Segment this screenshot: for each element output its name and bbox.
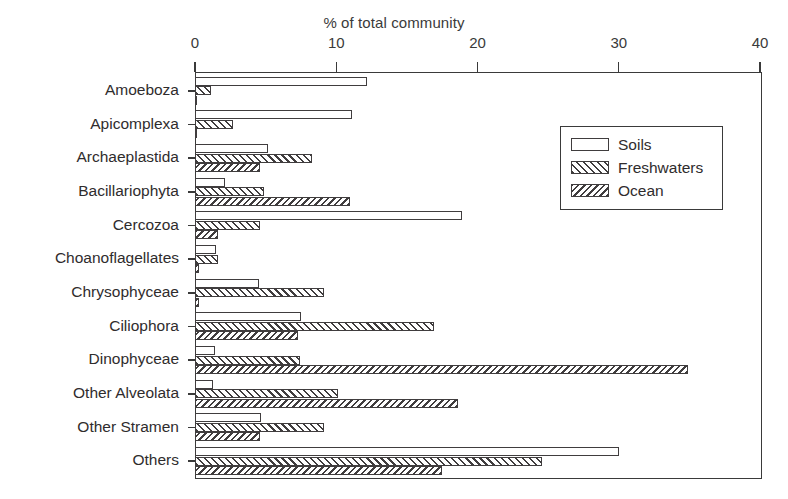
x-tick-label: 30 [610,34,627,51]
bar-ocean [195,163,260,172]
bar-group [195,410,760,444]
category-tick-mark [188,225,195,226]
bar-group [195,241,760,275]
bar-soils [195,312,301,321]
legend-item-ocean: Ocean [571,179,714,202]
bar-soils [195,144,268,153]
category-label: Bacillariophyta [0,182,179,200]
x-tick-label: 0 [191,34,199,51]
bar-ocean [195,466,442,475]
category-label: Ciliophora [0,317,179,335]
category-tick-mark [188,326,195,327]
x-tick-mark [336,62,337,72]
legend-label-freshwaters: Freshwaters [618,159,703,177]
bar-freshwaters [195,356,300,365]
x-tick-mark [618,62,619,72]
bar-freshwaters [195,221,260,230]
x-tick-mark [194,62,195,72]
bar-freshwaters [195,154,312,163]
bar-ocean [195,298,199,307]
bar-freshwaters [195,288,324,297]
x-tick-label: 20 [469,34,486,51]
category-label: Amoeboza [0,81,179,99]
bar-ocean [195,96,197,105]
chart-legend: Soils Freshwaters Ocean [560,126,723,210]
bar-ocean [195,331,298,340]
x-tick-label: 40 [752,34,769,51]
bar-freshwaters [195,86,211,95]
category-tick-mark [188,427,195,428]
category-label: Dinophyceae [0,350,179,368]
bar-freshwaters [195,322,434,331]
category-label: Other Alveolata [0,384,179,402]
bar-ocean [195,399,458,408]
category-tick-mark [188,157,195,158]
category-tick-mark [188,359,195,360]
bar-ocean [195,197,350,206]
bar-freshwaters [195,423,324,432]
category-label: Chrysophyceae [0,283,179,301]
x-tick-label: 10 [328,34,345,51]
bar-group [195,376,760,410]
bar-group [195,443,760,477]
category-tick-mark [188,393,195,394]
x-tick-mark [477,62,478,72]
bar-group [195,208,760,242]
bar-freshwaters [195,120,233,129]
bar-chart: % of total community 010203040 AmoebozaA… [0,0,788,499]
bar-freshwaters [195,255,218,264]
category-tick-mark [188,124,195,125]
category-tick-mark [188,460,195,461]
bar-freshwaters [195,389,338,398]
bar-group [195,73,760,107]
legend-label-soils: Soils [618,136,652,154]
bar-group [195,275,760,309]
category-label: Other Stramen [0,418,179,436]
x-tick-mark [759,62,760,72]
category-tick-mark [188,258,195,259]
x-axis-ticks: 010203040 [195,56,760,72]
bar-soils [195,346,215,355]
legend-item-soils: Soils [571,133,714,156]
bar-soils [195,380,213,389]
bar-soils [195,178,225,187]
bar-ocean [195,264,199,273]
category-tick-mark [188,90,195,91]
bar-soils [195,245,216,254]
bar-soils [195,447,619,456]
bar-freshwaters [195,187,264,196]
legend-item-freshwaters: Freshwaters [571,156,714,179]
bar-group [195,342,760,376]
bar-soils [195,279,259,288]
bar-soils [195,110,352,119]
bar-freshwaters [195,457,542,466]
category-label: Choanoflagellates [0,249,179,267]
category-label: Cercozoa [0,216,179,234]
category-label: Others [0,451,179,469]
legend-swatch-freshwaters-icon [571,161,609,174]
legend-label-ocean: Ocean [618,182,664,200]
category-tick-mark [188,191,195,192]
bar-soils [195,413,261,422]
category-label: Apicomplexa [0,115,179,133]
bar-ocean [195,365,688,374]
bar-soils [195,211,462,220]
bar-soils [195,77,367,86]
bar-group [195,309,760,343]
bar-ocean [195,230,218,239]
category-label: Archaeplastida [0,148,179,166]
category-tick-mark [188,292,195,293]
y-axis-labels: AmoebozaApicomplexaArchaeplastidaBacilla… [0,73,195,477]
bar-ocean [195,129,197,138]
legend-swatch-ocean-icon [571,184,609,197]
x-axis-title: % of total community [0,14,788,31]
legend-swatch-soils-icon [571,138,609,151]
bar-ocean [195,432,260,441]
